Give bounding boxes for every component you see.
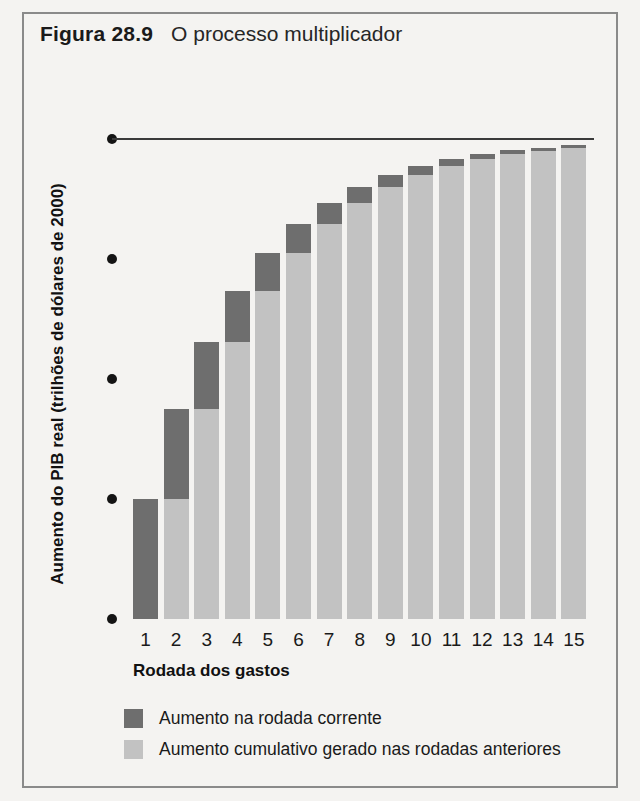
x-tick-label: 15	[554, 629, 594, 651]
bar-segment-current-round	[378, 175, 403, 187]
previous-rounds-swatch	[124, 740, 143, 759]
bar-column[interactable]	[500, 150, 525, 619]
bar-column[interactable]	[133, 499, 158, 619]
bar-segment-current-round	[408, 166, 433, 175]
bar-segment-previous-rounds	[470, 159, 495, 619]
bar-column[interactable]	[225, 291, 250, 619]
bar-segment-current-round	[317, 203, 342, 224]
bar-column[interactable]	[286, 224, 311, 619]
bar-segment-previous-rounds	[164, 499, 189, 619]
bar-segment-previous-rounds	[561, 148, 586, 619]
bar-segment-previous-rounds	[225, 342, 250, 619]
bar-column[interactable]	[439, 159, 464, 619]
chart-plot-area: Aumento do PIB real (trilhões de dólares…	[0, 0, 640, 801]
bar-column[interactable]	[255, 253, 280, 619]
legend-item-previous-rounds: Aumento cumulativo gerado nas rodadas an…	[124, 736, 561, 763]
bar-column[interactable]	[408, 166, 433, 619]
bar-column[interactable]	[531, 148, 556, 619]
bar-segment-previous-rounds	[408, 175, 433, 619]
bar-segment-current-round	[531, 148, 556, 151]
bar-column[interactable]	[317, 203, 342, 619]
bar-segment-previous-rounds	[531, 151, 556, 619]
bar-segment-current-round	[225, 291, 250, 342]
bar-segment-current-round	[500, 150, 525, 154]
bar-segment-current-round	[439, 159, 464, 166]
bar-column[interactable]	[561, 145, 586, 619]
bar-segment-current-round	[470, 154, 495, 159]
legend-item-current-round: Aumento na rodada corrente	[124, 705, 561, 732]
bar-segment-current-round	[347, 187, 372, 203]
legend-label-current-round: Aumento na rodada corrente	[159, 708, 382, 729]
bar-segment-current-round	[561, 145, 586, 148]
bar-segment-current-round	[164, 409, 189, 499]
bar-column[interactable]	[194, 342, 219, 619]
bar-segment-current-round	[194, 342, 219, 409]
bar-segment-current-round	[133, 499, 158, 619]
bar-column[interactable]	[470, 154, 495, 619]
bar-segment-previous-rounds	[378, 187, 403, 619]
bar-segment-previous-rounds	[347, 203, 372, 619]
bar-column[interactable]	[347, 187, 372, 619]
bar-segment-previous-rounds	[439, 166, 464, 619]
reference-line-2-0	[112, 138, 594, 140]
bar-segment-previous-rounds	[317, 224, 342, 619]
bar-column[interactable]	[164, 409, 189, 619]
current-round-swatch	[124, 709, 143, 728]
legend-label-previous-rounds: Aumento cumulativo gerado nas rodadas an…	[159, 739, 561, 760]
figure-panel: Figura 28.9O processo multiplicador Aume…	[0, 0, 640, 801]
bar-series-layer	[0, 0, 640, 801]
bar-segment-previous-rounds	[500, 154, 525, 619]
bar-segment-current-round	[255, 253, 280, 291]
bar-segment-current-round	[286, 224, 311, 253]
bar-segment-previous-rounds	[255, 291, 280, 619]
bar-segment-previous-rounds	[194, 409, 219, 619]
x-axis-title: Rodada dos gastos	[133, 661, 290, 681]
bar-column[interactable]	[378, 175, 403, 619]
chart-legend: Aumento na rodada corrente Aumento cumul…	[124, 705, 561, 767]
bar-segment-previous-rounds	[286, 253, 311, 619]
